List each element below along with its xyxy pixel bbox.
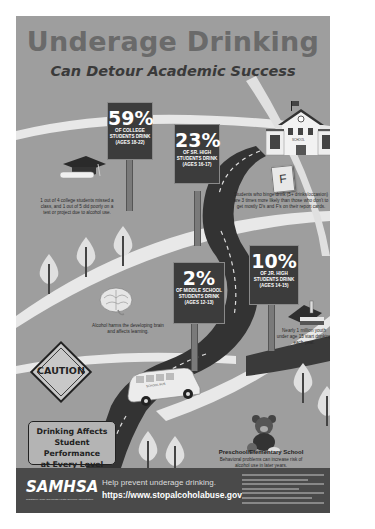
grade-card-icon: F <box>271 165 296 193</box>
tree-icon <box>38 252 60 294</box>
footer: SAMHSA Substance Abuse and Mental Health… <box>16 468 330 513</box>
sign-ages: (ages 14-15) <box>250 283 298 289</box>
brain-icon <box>98 286 136 318</box>
sign-sr-high: 23% of sr. high students drink (ages 16-… <box>174 124 220 184</box>
sign-percent: 2% <box>174 268 224 288</box>
callout-line1: Drinking Affects <box>29 426 115 437</box>
sign-college: 59% of college students drink (ages 18-2… <box>107 102 153 160</box>
sign-percent: 23% <box>175 130 219 150</box>
school-bus-icon <box>126 368 206 408</box>
samhsa-logo[interactable]: SAMHSA <box>26 478 98 496</box>
samhsa-logo-subtitle: Substance Abuse and Mental Health Servic… <box>26 498 93 501</box>
sign-ages: (ages 18-22) <box>108 140 152 146</box>
sign-pole <box>268 301 275 351</box>
caution-sign-text: CAUTION <box>34 365 88 376</box>
sign-pole <box>194 191 201 246</box>
graduation-cap-icon <box>58 154 108 184</box>
help-text: Help prevent underage drinking. <box>102 478 216 487</box>
callout-box: Drinking Affects Student Performance at … <box>28 421 116 465</box>
sign-pole <box>191 321 198 371</box>
sign-pole <box>126 156 133 211</box>
tree-icon <box>137 429 159 471</box>
sign-middle-school: 2% of middle school students drink (ages… <box>173 262 225 324</box>
grade-card-letter: F <box>279 172 288 187</box>
note-college: 1 out of 4 college students missed a cla… <box>38 198 116 217</box>
note-jr-high: Nearly 1 million youth under age 15 star… <box>276 328 330 347</box>
tree-icon <box>112 224 134 266</box>
infographic-poster: Underage Drinking Can Detour Academic Su… <box>16 16 330 513</box>
school-building-icon <box>266 101 330 156</box>
tree-icon <box>75 235 97 277</box>
note-preschool-title: Preschool/Elementary School <box>206 449 316 455</box>
sign-percent: 59% <box>108 108 152 128</box>
sign-ages: (ages 12-13) <box>174 300 224 306</box>
callout-line2: Student Performance <box>29 437 115 459</box>
website-link[interactable]: https://www.stopalcoholabuse.gov <box>102 490 242 500</box>
tree-icon <box>316 384 330 426</box>
sign-ages: (ages 16-17) <box>175 162 219 168</box>
sign-percent: 10% <box>250 251 298 271</box>
fine-print <box>242 474 324 506</box>
teddy-bear-icon <box>244 414 284 454</box>
note-high-school: Students who binge drink (5+ drinks/occa… <box>232 192 330 211</box>
note-middle-school: Alcohol harms the developing brain and a… <box>92 323 164 335</box>
school-label: SCHOOL <box>292 138 305 142</box>
tree-icon <box>292 361 314 403</box>
sign-jr-high: 10% of jr. high students drink (ages 14-… <box>249 245 299 305</box>
